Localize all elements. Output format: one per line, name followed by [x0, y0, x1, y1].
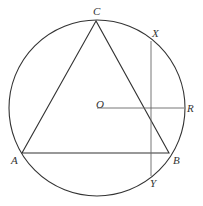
- label-y: Y: [150, 178, 156, 189]
- label-a: A: [11, 155, 18, 166]
- triangle-abc: [22, 21, 169, 153]
- label-x: X: [152, 28, 159, 39]
- label-r: R: [187, 103, 194, 114]
- label-o: O: [96, 99, 104, 110]
- label-b: B: [173, 155, 180, 166]
- label-c: C: [93, 6, 100, 17]
- geometry-diagram: C X O R A B Y: [0, 0, 203, 206]
